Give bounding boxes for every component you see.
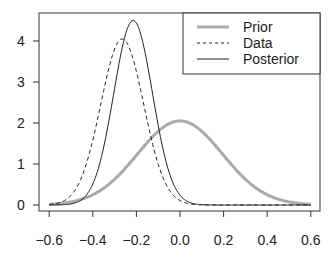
y-tick-label: 3: [17, 74, 25, 90]
y-tick-label: 2: [17, 115, 25, 131]
legend-label-prior: Prior: [243, 19, 273, 35]
x-tick-label: −0.4: [79, 232, 107, 248]
y-axis: 01234: [17, 33, 39, 213]
x-tick-label: 0.4: [257, 232, 277, 248]
x-tick-label: 0.6: [301, 232, 321, 248]
x-tick-label: −0.6: [35, 232, 63, 248]
legend-label-data: Data: [243, 35, 273, 51]
x-axis: −0.6−0.4−0.20.00.20.40.6: [35, 211, 320, 248]
legend-label-posterior: Posterior: [243, 51, 299, 67]
y-tick-label: 0: [17, 197, 25, 213]
x-tick-label: −0.2: [123, 232, 151, 248]
y-tick-label: 1: [17, 156, 25, 172]
y-tick-label: 4: [17, 33, 25, 49]
density-chart: 01234 −0.6−0.4−0.20.00.20.40.6 PriorData…: [0, 0, 333, 269]
legend: PriorDataPosterior: [183, 13, 320, 74]
x-tick-label: 0.0: [170, 232, 190, 248]
x-tick-label: 0.2: [214, 232, 234, 248]
